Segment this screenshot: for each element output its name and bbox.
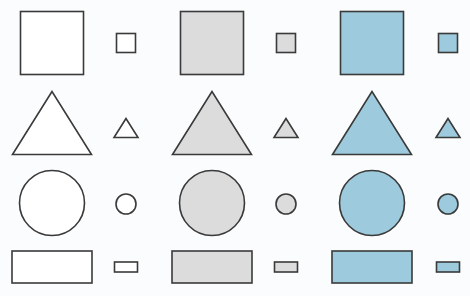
- large-white-triangle-icon: [13, 92, 92, 155]
- small-white-triangle-icon: [114, 119, 138, 138]
- small-gray-square-icon: [277, 34, 296, 53]
- large-white-rectangle-icon: [12, 251, 92, 283]
- large-gray-rectangle-icon: [172, 251, 252, 283]
- small-blue-square-icon: [439, 34, 458, 53]
- large-blue-square-icon: [341, 12, 404, 75]
- large-white-square-icon: [21, 12, 84, 75]
- shapes-grid: [0, 0, 470, 296]
- large-blue-triangle-icon: [333, 92, 412, 155]
- small-gray-rectangle-icon: [275, 262, 298, 272]
- small-blue-triangle-icon: [436, 119, 460, 138]
- small-white-rectangle-icon: [115, 262, 138, 272]
- large-blue-rectangle-icon: [332, 251, 412, 283]
- large-white-circle-icon: [20, 171, 85, 236]
- small-blue-rectangle-icon: [437, 262, 460, 272]
- shapes-figure: [0, 0, 470, 296]
- large-gray-circle-icon: [180, 171, 245, 236]
- small-gray-triangle-icon: [274, 119, 298, 138]
- small-white-circle-icon: [116, 194, 136, 214]
- large-gray-square-icon: [181, 12, 244, 75]
- small-white-square-icon: [117, 34, 136, 53]
- large-blue-circle-icon: [340, 171, 405, 236]
- small-gray-circle-icon: [276, 194, 296, 214]
- large-gray-triangle-icon: [173, 92, 252, 155]
- small-blue-circle-icon: [438, 194, 458, 214]
